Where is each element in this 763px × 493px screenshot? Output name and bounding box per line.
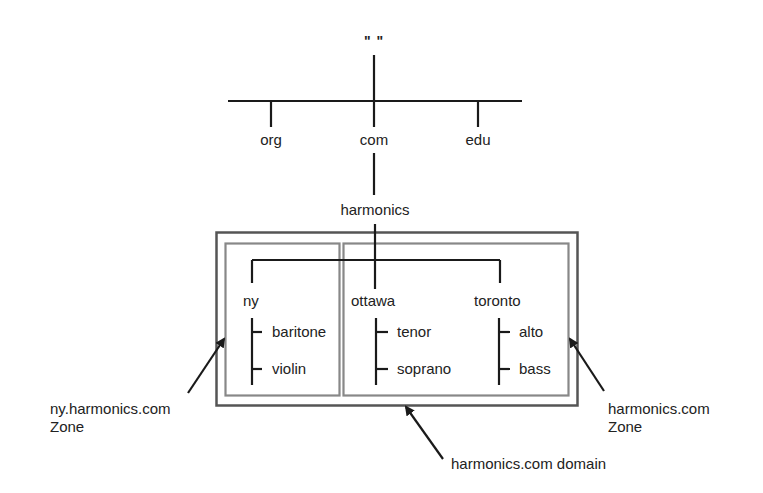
harmonics-zone-arrow: [570, 339, 604, 391]
tld-edu: edu: [465, 131, 490, 148]
subdomain-toronto: toronto: [474, 292, 521, 309]
ny-zone-arrow: [188, 339, 224, 393]
tld-org: org: [260, 131, 282, 148]
host-bass: bass: [519, 360, 551, 377]
harmonics-zone-annotation: harmonics.com Zone: [608, 400, 710, 436]
domain-arrow: [406, 407, 443, 459]
domain-annotation: harmonics.com domain: [451, 455, 606, 473]
subdomain-ottawa: ottawa: [351, 292, 395, 309]
host-tenor: tenor: [397, 323, 431, 340]
domain-box: [217, 233, 578, 406]
tld-com: com: [360, 131, 388, 148]
host-violin: violin: [272, 360, 306, 377]
root-label: " ": [364, 33, 384, 50]
host-baritone: baritone: [272, 323, 326, 340]
host-alto: alto: [519, 323, 543, 340]
ny-zone-annotation: ny.harmonics.com Zone: [50, 400, 171, 436]
host-soprano: soprano: [397, 360, 451, 377]
subdomain-ny: ny: [243, 292, 259, 309]
domain-harmonics: harmonics: [340, 201, 409, 218]
